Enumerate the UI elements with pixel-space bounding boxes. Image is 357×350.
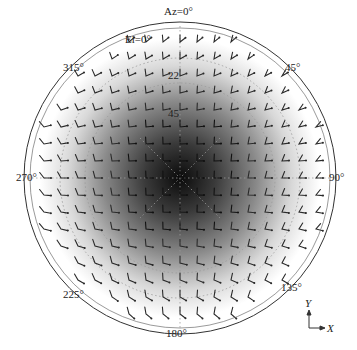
arrowhead-icon xyxy=(84,160,86,162)
arrowhead-icon xyxy=(254,107,256,109)
arrowhead-icon xyxy=(288,142,290,144)
arrowhead-icon xyxy=(322,142,324,144)
arrowhead-icon xyxy=(168,299,170,301)
arrowhead-icon xyxy=(50,230,52,232)
arrowhead-icon xyxy=(305,212,307,214)
arrowhead-icon xyxy=(118,194,120,196)
arrowhead-icon xyxy=(305,160,307,162)
arrowhead-icon xyxy=(218,37,220,39)
arrowhead-icon xyxy=(101,265,103,267)
arrowhead-icon xyxy=(152,229,154,231)
arrowhead-icon xyxy=(135,246,137,248)
arrowhead-icon xyxy=(254,229,256,231)
arrowhead-icon xyxy=(253,72,255,74)
arrowhead-icon xyxy=(271,177,273,179)
arrowhead-icon xyxy=(152,211,154,213)
arrowhead-icon xyxy=(305,230,307,232)
arrowhead-icon xyxy=(84,230,86,232)
arrowhead-icon xyxy=(254,177,256,179)
arrowhead-icon xyxy=(118,264,120,266)
arrowhead-icon xyxy=(305,142,307,144)
arrowhead-icon xyxy=(101,107,103,109)
arrowhead-icon xyxy=(101,177,103,179)
arrowhead-icon xyxy=(202,299,204,301)
arrowhead-icon xyxy=(152,282,154,284)
arrowhead-icon xyxy=(168,37,170,39)
arrowhead-icon xyxy=(135,143,137,145)
arrowhead-icon xyxy=(118,90,120,92)
arrowhead-icon xyxy=(84,247,86,249)
arrowhead-icon xyxy=(220,125,222,127)
arrowhead-icon xyxy=(67,124,69,126)
arrowhead-icon xyxy=(220,177,222,179)
arrowhead-icon xyxy=(67,107,69,109)
arrowhead-icon xyxy=(186,211,188,213)
arrowhead-icon xyxy=(101,142,103,144)
arrowhead-icon xyxy=(168,317,170,319)
arrowhead-icon xyxy=(135,264,137,266)
arrowhead-icon xyxy=(135,229,137,231)
arrowhead-icon xyxy=(135,194,137,196)
elevation-label-22: 22 xyxy=(168,70,179,81)
arrowhead-icon xyxy=(169,125,171,127)
arrowhead-icon xyxy=(135,125,137,127)
arrowhead-icon xyxy=(50,177,52,179)
arrowhead-icon xyxy=(237,160,239,162)
arrowhead-icon xyxy=(288,107,290,109)
arrowhead-icon xyxy=(152,125,154,127)
arrowhead-icon xyxy=(253,300,255,302)
arrowhead-icon xyxy=(236,54,238,56)
arrowhead-icon xyxy=(220,108,222,110)
arrowhead-icon xyxy=(236,282,238,284)
arrowhead-icon xyxy=(101,160,103,162)
arrowhead-icon xyxy=(186,143,188,145)
arrowhead-icon xyxy=(117,300,119,302)
arrowhead-icon xyxy=(220,211,222,213)
arrowhead-icon xyxy=(186,282,188,284)
arrowhead-icon xyxy=(237,194,239,196)
arrowhead-icon xyxy=(135,212,137,214)
arrowhead-icon xyxy=(203,90,205,92)
arrowhead-icon xyxy=(169,160,171,162)
arrowhead-icon xyxy=(220,264,222,266)
arrowhead-icon xyxy=(271,247,273,249)
azimuth-label-270: 270° xyxy=(16,172,37,183)
arrowhead-icon xyxy=(118,160,120,162)
arrowhead-icon xyxy=(101,194,103,196)
arrowhead-icon xyxy=(254,247,256,249)
arrowhead-icon xyxy=(133,318,135,320)
arrowhead-icon xyxy=(203,282,205,284)
arrowhead-icon xyxy=(169,282,171,284)
arrowhead-icon xyxy=(271,194,273,196)
arrowhead-icon xyxy=(220,282,222,284)
arrowhead-icon xyxy=(67,247,69,249)
arrowhead-icon xyxy=(134,300,136,302)
arrowhead-icon xyxy=(83,265,85,267)
arrowhead-icon xyxy=(118,125,120,127)
arrowhead-icon xyxy=(203,143,205,145)
arrowhead-icon xyxy=(135,160,137,162)
arrowhead-icon xyxy=(67,195,69,197)
arrowhead-icon xyxy=(186,194,188,196)
arrowhead-icon xyxy=(67,230,69,232)
arrowhead-icon xyxy=(218,317,220,319)
arrowhead-icon xyxy=(135,177,137,179)
arrowhead-icon xyxy=(254,264,256,266)
arrowhead-icon xyxy=(220,229,222,231)
arrowhead-icon xyxy=(186,160,188,162)
arrowhead-icon xyxy=(288,160,290,162)
arrowhead-icon xyxy=(118,142,120,144)
arrowhead-icon xyxy=(50,142,52,144)
arrowhead-icon xyxy=(152,246,154,248)
arrowhead-icon xyxy=(84,125,86,127)
arrowhead-icon xyxy=(237,229,239,231)
arrowhead-icon xyxy=(220,72,222,74)
arrowhead-icon xyxy=(220,160,222,162)
arrowhead-icon xyxy=(322,124,324,126)
arrowhead-icon xyxy=(203,264,205,266)
arrowhead-icon xyxy=(288,230,290,232)
arrowhead-icon xyxy=(169,264,171,266)
arrowhead-icon xyxy=(67,160,69,162)
elevation-label-45: 45 xyxy=(168,108,179,119)
arrowhead-icon xyxy=(152,177,154,179)
